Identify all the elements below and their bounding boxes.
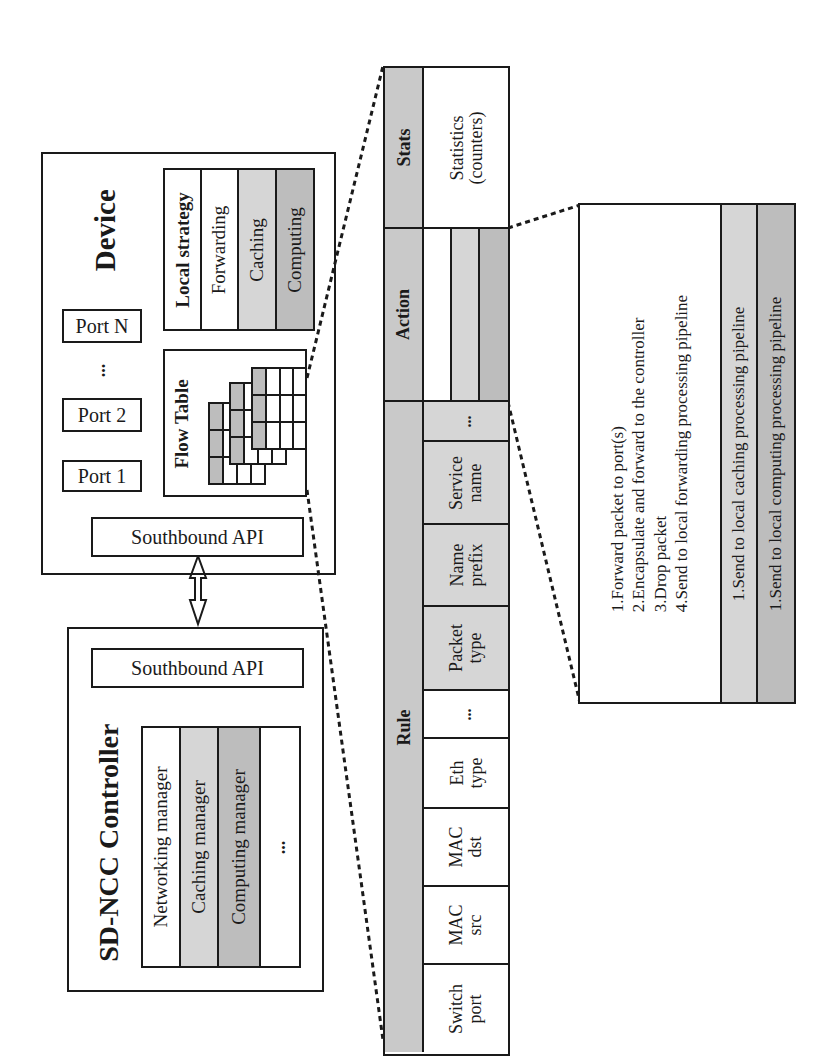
manager-caching[interactable]: Caching manager (181, 728, 219, 966)
rule-field-mac-src[interactable]: MACsrc (424, 887, 508, 965)
rule-field-switch-port[interactable]: Switchport (424, 965, 508, 1052)
stats-value: Statistics(counters) (424, 68, 508, 229)
rule-field-eth-type[interactable]: Ethtype (424, 739, 508, 809)
action-computing-cell[interactable] (480, 229, 508, 402)
section-action: Action (385, 229, 424, 402)
action-caching-cell[interactable] (452, 229, 480, 402)
rule-field-packet-type[interactable]: Packettype (424, 607, 508, 691)
rule-field-mac-dst[interactable]: MACdst (424, 809, 508, 887)
action-list-computing: 1.Send to local computing processing pip… (758, 205, 794, 702)
action-list-caching: 1.Send to local caching processing pipel… (722, 205, 758, 702)
device-southbound-api[interactable]: Southbound API (91, 517, 304, 557)
section-rule: Rule (385, 402, 424, 1052)
controller-title: SD-NCC Controller (86, 700, 132, 985)
rule-field-service-name[interactable]: Servicename (424, 442, 508, 525)
rule-field-ellipsis-2: ... (424, 402, 508, 442)
section-stats: Stats (385, 68, 424, 229)
manager-ellipsis: ... (261, 728, 299, 966)
manager-computing[interactable]: Computing manager (219, 728, 261, 966)
manager-networking[interactable]: Networking manager (143, 728, 181, 966)
controller-southbound-api[interactable]: Southbound API (91, 648, 304, 688)
rule-field-name-prefix[interactable]: Nameprefix (424, 525, 508, 607)
action-list-forwarding: 1.Forward packet to port(s) 2.Encapsulat… (580, 205, 722, 702)
action-forwarding-cell[interactable] (424, 229, 452, 402)
rule-field-ellipsis-1: ... (424, 691, 508, 739)
